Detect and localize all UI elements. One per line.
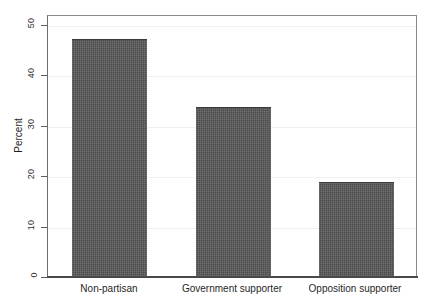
y-axis-title: Percent xyxy=(13,96,24,176)
y-tick-mark xyxy=(41,75,47,76)
y-tick-label: 50 xyxy=(0,18,36,28)
bar-chart: 01020304050 Percent Non-partisanGovernme… xyxy=(0,0,432,308)
bar xyxy=(196,107,271,276)
bar xyxy=(72,39,147,276)
y-tick-mark xyxy=(41,227,47,228)
y-tick-label: 40 xyxy=(0,68,36,78)
gridline xyxy=(48,26,416,27)
x-tick-label: Opposition supporter xyxy=(275,283,432,294)
y-tick-mark xyxy=(41,126,47,127)
bar xyxy=(319,182,394,276)
x-axis-baseline xyxy=(47,276,418,278)
y-tick-mark xyxy=(41,277,47,278)
plot-area xyxy=(47,15,417,277)
y-tick-label: 0 xyxy=(0,270,36,280)
y-tick-mark xyxy=(41,176,47,177)
y-tick-label: 10 xyxy=(0,220,36,230)
y-tick-mark xyxy=(41,25,47,26)
